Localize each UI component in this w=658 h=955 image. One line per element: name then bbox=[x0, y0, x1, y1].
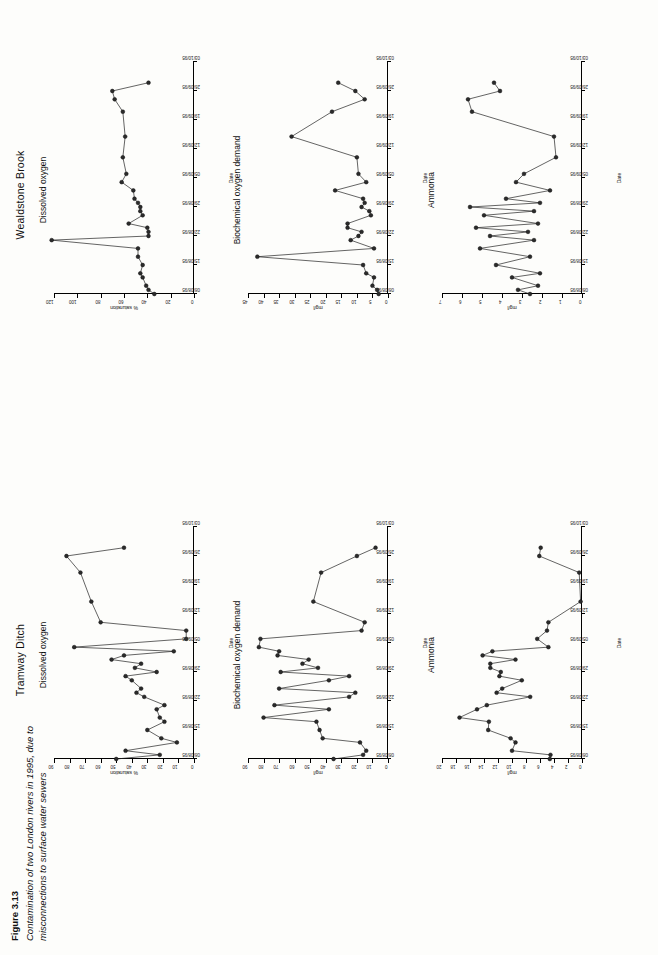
data-point bbox=[333, 189, 337, 193]
plot-area-tramway-dissolved-oxygen: 08/08/9515/08/9522/08/9529/08/9505/09/95… bbox=[54, 527, 194, 759]
data-point bbox=[552, 135, 556, 139]
data-point bbox=[136, 255, 140, 259]
x-tick-label: 03/10/95 bbox=[376, 520, 394, 525]
data-point bbox=[372, 276, 376, 280]
x-tick-label: 03/10/95 bbox=[182, 55, 200, 60]
chart-title-tramway-dissolved-oxygen: Dissolved oxygen bbox=[38, 505, 48, 805]
chart-panel-wealdstone-biochemical-oxygen-demand: Biochemical oxygen demand08/08/9515/08/9… bbox=[232, 40, 427, 340]
data-point bbox=[255, 255, 259, 259]
chart-panel-tramway-ammonia: Ammonia08/08/9515/08/9522/08/9529/08/950… bbox=[426, 505, 621, 805]
data-point bbox=[307, 658, 311, 662]
data-point bbox=[498, 89, 502, 93]
data-point bbox=[363, 620, 367, 624]
data-point bbox=[318, 728, 322, 732]
data-point bbox=[315, 720, 319, 724]
plot-area-tramway-ammonia: 08/08/9515/08/9522/08/9529/08/9505/09/95… bbox=[442, 527, 582, 759]
data-point bbox=[122, 546, 126, 550]
data-point bbox=[120, 180, 124, 184]
data-point bbox=[577, 571, 581, 575]
plot-area-wealdstone-dissolved-oxygen: 08/08/9515/08/9522/08/9529/08/9505/09/95… bbox=[54, 62, 194, 294]
data-point bbox=[123, 135, 127, 139]
data-point bbox=[327, 707, 331, 711]
data-point bbox=[124, 749, 128, 753]
data-point bbox=[547, 645, 551, 649]
y-axis-label: mg/l bbox=[288, 770, 348, 776]
data-point bbox=[532, 238, 536, 242]
data-point bbox=[114, 757, 118, 761]
chart-panel-tramway-dissolved-oxygen: Dissolved oxygen08/08/9515/08/9522/08/95… bbox=[38, 505, 233, 805]
series-line bbox=[259, 548, 376, 759]
data-point bbox=[478, 247, 482, 251]
data-point bbox=[65, 554, 69, 558]
data-point bbox=[276, 654, 280, 658]
data-point bbox=[136, 201, 140, 205]
data-point bbox=[488, 666, 492, 670]
data-point bbox=[72, 645, 76, 649]
data-point bbox=[158, 753, 162, 757]
x-axis-label: Date bbox=[616, 62, 622, 294]
data-point bbox=[184, 629, 188, 633]
data-point bbox=[311, 600, 315, 604]
data-point bbox=[175, 741, 179, 745]
data-point bbox=[364, 271, 368, 275]
data-point bbox=[110, 658, 114, 662]
data-point bbox=[138, 271, 142, 275]
data-point bbox=[147, 234, 151, 238]
data-point bbox=[347, 695, 351, 699]
data-point bbox=[528, 292, 532, 296]
x-tick-label: 03/10/95 bbox=[182, 520, 200, 525]
data-point bbox=[135, 691, 139, 695]
figure-page: Figure 3.13 Contamination of two London … bbox=[0, 0, 658, 955]
data-point bbox=[528, 695, 532, 699]
data-point bbox=[375, 288, 379, 292]
data-point bbox=[110, 89, 114, 93]
data-point bbox=[466, 97, 470, 101]
data-point bbox=[495, 691, 499, 695]
data-point bbox=[139, 687, 143, 691]
data-point bbox=[262, 716, 266, 720]
data-point bbox=[535, 637, 539, 641]
data-point bbox=[549, 753, 553, 757]
data-point bbox=[485, 703, 489, 707]
data-point bbox=[486, 728, 490, 732]
data-point bbox=[141, 263, 145, 267]
data-point bbox=[509, 736, 513, 740]
x-axis-label: Date bbox=[616, 527, 622, 759]
y-tick bbox=[388, 293, 389, 298]
data-point bbox=[349, 238, 353, 242]
data-point bbox=[492, 81, 496, 85]
data-point bbox=[147, 288, 151, 292]
data-point bbox=[548, 757, 552, 761]
data-point bbox=[79, 571, 83, 575]
data-point bbox=[374, 546, 378, 550]
data-point bbox=[545, 629, 549, 633]
data-point bbox=[336, 81, 340, 85]
data-point bbox=[528, 255, 532, 259]
data-point bbox=[547, 620, 551, 624]
y-axis-label: mg/l bbox=[288, 305, 348, 311]
data-point bbox=[539, 546, 543, 550]
rotated-page-content: Figure 3.13 Contamination of two London … bbox=[0, 0, 658, 955]
data-point bbox=[522, 172, 526, 176]
data-point bbox=[363, 201, 367, 205]
data-point bbox=[516, 288, 520, 292]
data-point bbox=[277, 649, 281, 653]
data-point bbox=[361, 753, 365, 757]
data-point bbox=[136, 247, 140, 251]
data-point bbox=[184, 637, 188, 641]
y-tick bbox=[194, 293, 195, 298]
data-point bbox=[273, 703, 277, 707]
y-tick bbox=[388, 758, 389, 763]
data-point bbox=[536, 222, 540, 226]
data-point bbox=[548, 189, 552, 193]
data-point bbox=[537, 554, 541, 558]
data-point bbox=[554, 155, 558, 159]
data-point bbox=[130, 678, 134, 682]
data-point bbox=[301, 662, 305, 666]
data-point bbox=[346, 226, 350, 230]
series-wealdstone-dissolved-oxygen bbox=[54, 62, 194, 294]
plot-area-wealdstone-ammonia: 08/08/9515/08/9522/08/9529/08/9505/09/95… bbox=[442, 62, 582, 294]
data-point bbox=[138, 209, 142, 213]
data-point bbox=[538, 201, 542, 205]
data-point bbox=[475, 707, 479, 711]
